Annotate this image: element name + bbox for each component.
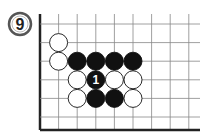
black-stone: 1 [87,71,105,89]
white-stone [68,71,86,89]
black-stone [124,52,142,70]
move-number-label: 1 [92,73,99,87]
white-stone-disc [68,71,86,89]
white-stone-disc [124,89,142,107]
white-stone [105,71,123,89]
black-stone [87,89,105,107]
black-stone [105,89,123,107]
white-stone-disc [50,52,68,70]
black-stone-disc [105,89,123,107]
white-stone [50,34,68,52]
black-stone-disc [105,52,123,70]
white-stone [124,89,142,107]
black-stone-disc [87,89,105,107]
white-stone-disc [50,34,68,52]
white-stone [50,52,68,70]
problem-number: 9 [16,16,25,33]
go-board-diagram: 1 9 [0,0,212,136]
black-stone-disc [124,52,142,70]
black-stone-disc [87,52,105,70]
white-stone-disc [105,71,123,89]
black-stone [105,52,123,70]
white-stone-disc [68,89,86,107]
black-stone [87,52,105,70]
black-stone-disc [68,52,86,70]
white-stone-disc [124,71,142,89]
black-stone [68,52,86,70]
problem-number-badge: 9 [9,13,31,35]
board-grid [40,14,200,130]
white-stone [68,89,86,107]
white-stone [124,71,142,89]
